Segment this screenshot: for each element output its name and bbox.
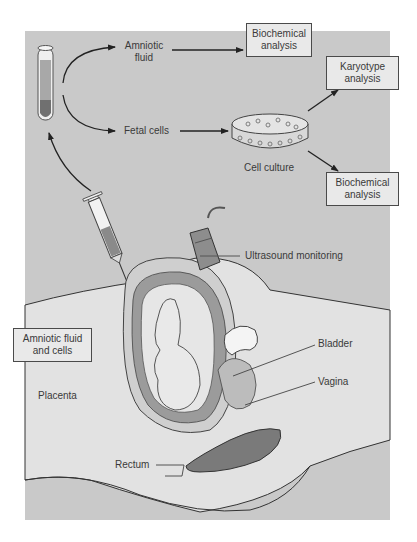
label-fetal-cells: Fetal cells — [124, 125, 169, 137]
label-amniotic-fluid-line2: fluid — [118, 52, 170, 64]
box-amniotic-cells-line1: Amniotic fluid — [23, 333, 82, 345]
arrow-culture-to-karyotype — [308, 90, 338, 111]
box-biochemical-top-line1: Biochemical — [252, 28, 306, 40]
petri-dish-icon — [232, 114, 308, 148]
box-biochemical-bottom-line2: analysis — [336, 189, 390, 201]
box-amniotic-fluid-and-cells: Amniotic fluid and cells — [13, 328, 92, 362]
arrow-tube-to-cells — [63, 95, 115, 131]
label-cell-culture: Cell culture — [244, 162, 294, 174]
label-rectum: Rectum — [115, 459, 149, 471]
box-karyotype-analysis: Karyotype analysis — [326, 56, 399, 90]
box-biochemical-analysis-top: Biochemical analysis — [246, 23, 312, 57]
arrow-syringe-to-tube — [49, 133, 91, 191]
label-placenta: Placenta — [38, 390, 77, 402]
box-biochemical-bottom-line1: Biochemical — [336, 177, 390, 189]
label-amniotic-fluid-line1: Amniotic — [118, 40, 170, 52]
test-tube-icon — [38, 46, 53, 121]
box-karyotype-line2: analysis — [340, 73, 385, 85]
box-biochemical-analysis-bottom: Biochemical analysis — [326, 172, 399, 206]
arrow-tube-to-fluid — [63, 47, 115, 83]
arrow-culture-to-biochem — [308, 151, 338, 171]
label-bladder: Bladder — [318, 338, 352, 350]
box-karyotype-line1: Karyotype — [340, 61, 385, 73]
box-amniotic-cells-line2: and cells — [23, 345, 82, 357]
box-biochemical-top-line2: analysis — [252, 40, 306, 52]
label-vagina: Vagina — [318, 376, 348, 388]
label-amniotic-fluid: Amniotic fluid — [118, 40, 170, 64]
label-ultrasound-monitoring: Ultrasound monitoring — [245, 250, 343, 262]
